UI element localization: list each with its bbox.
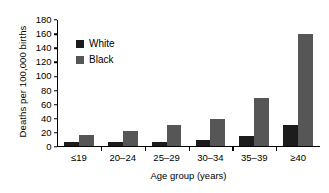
y-axis-tick-label: 80 bbox=[41, 86, 54, 96]
bar-black-0 bbox=[79, 135, 94, 145]
x-axis-category-label: 25–29 bbox=[153, 152, 179, 163]
y-axis-tick-label: 40 bbox=[41, 114, 54, 124]
y-axis-tick: 80 bbox=[41, 86, 57, 96]
y-axis-tick: 140 bbox=[36, 43, 57, 53]
bar-black-2 bbox=[167, 125, 182, 145]
y-axis-tick: 160 bbox=[36, 29, 57, 39]
y-axis-tick-label: 100 bbox=[36, 72, 54, 82]
legend-label: White bbox=[89, 39, 115, 49]
chart-legend: WhiteBlack bbox=[76, 37, 115, 69]
y-axis-tick-label: 60 bbox=[41, 100, 54, 110]
y-axis-title: Deaths per 100,000 births bbox=[17, 12, 28, 152]
bar-white-4 bbox=[239, 136, 254, 146]
y-axis-tick: 60 bbox=[41, 100, 57, 110]
x-axis-title: Age group (years) bbox=[57, 170, 320, 181]
bar-black-4 bbox=[254, 98, 269, 146]
y-axis-tick-label: 0 bbox=[46, 142, 53, 152]
y-axis-tick: 120 bbox=[36, 58, 57, 68]
y-axis-tick-label: 180 bbox=[36, 15, 54, 25]
bar-white-1 bbox=[108, 142, 123, 145]
y-axis-tick: 0 bbox=[46, 142, 57, 152]
legend-item-black: Black bbox=[76, 53, 115, 66]
x-axis-tick-mark bbox=[276, 147, 277, 151]
x-axis-tick-mark bbox=[101, 147, 102, 151]
bar-chart: Deaths per 100,000 births 02040608010012… bbox=[0, 0, 329, 193]
bar-black-5 bbox=[298, 34, 313, 146]
y-axis-tick: 40 bbox=[41, 114, 57, 124]
bar-black-3 bbox=[210, 119, 225, 146]
bar-black-1 bbox=[123, 131, 138, 146]
x-axis-category-label: ≤19 bbox=[71, 152, 87, 163]
legend-swatch-icon bbox=[76, 56, 84, 64]
legend-label: Black bbox=[89, 55, 113, 65]
legend-item-white: White bbox=[76, 37, 115, 50]
x-axis-category-label: 35–39 bbox=[241, 152, 267, 163]
y-axis-tick-label: 140 bbox=[36, 43, 54, 53]
bar-white-2 bbox=[152, 142, 167, 146]
bar-white-0 bbox=[64, 142, 79, 145]
x-axis-category-label: 20–24 bbox=[110, 152, 136, 163]
y-axis-tick: 180 bbox=[36, 15, 57, 25]
x-axis-tick-mark bbox=[232, 147, 233, 151]
x-axis-tick-mark bbox=[189, 147, 190, 151]
x-axis-category-label: 30–34 bbox=[197, 152, 223, 163]
bar-white-5 bbox=[283, 125, 298, 145]
y-axis-tick-mark bbox=[54, 146, 58, 147]
y-axis-tick-label: 120 bbox=[36, 58, 54, 68]
x-axis-category-label: ≥40 bbox=[290, 152, 306, 163]
y-axis-tick-label: 160 bbox=[36, 29, 54, 39]
x-axis-labels: ≤1920–2425–2930–3435–39≥40 bbox=[57, 152, 320, 166]
y-axis-tick-label: 20 bbox=[41, 128, 54, 138]
legend-swatch-icon bbox=[76, 40, 84, 48]
x-axis-tick-mark bbox=[145, 147, 146, 151]
y-axis-tick: 100 bbox=[36, 72, 57, 82]
bar-white-3 bbox=[196, 140, 211, 146]
y-axis-tick: 20 bbox=[41, 128, 57, 138]
